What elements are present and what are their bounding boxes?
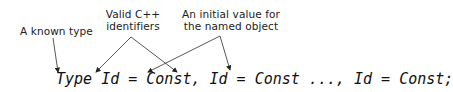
arrow-const-2 — [220, 36, 230, 70]
declaration-syntax: Type Id = Const, Id = Const ..., Id = Co… — [56, 70, 453, 88]
arrow-identifier-1 — [96, 37, 131, 72]
arrow-type — [53, 38, 58, 72]
arrow-identifier-2 — [131, 37, 177, 72]
arrow-const-1 — [148, 36, 220, 72]
